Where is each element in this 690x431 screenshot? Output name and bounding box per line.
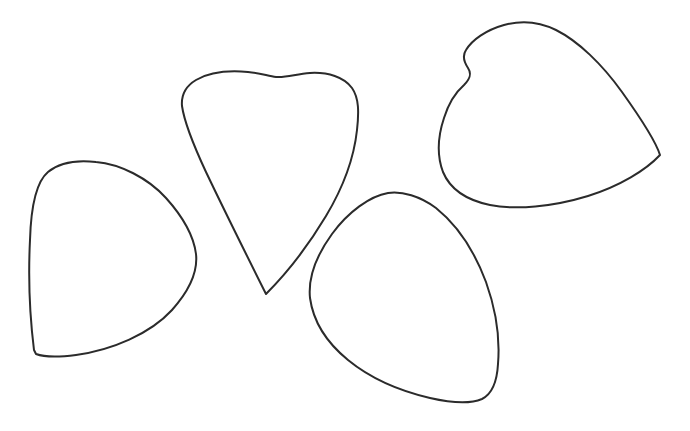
drawing-canvas (0, 0, 690, 431)
petal-outline-drawing (0, 0, 690, 431)
background-rect (0, 0, 690, 431)
